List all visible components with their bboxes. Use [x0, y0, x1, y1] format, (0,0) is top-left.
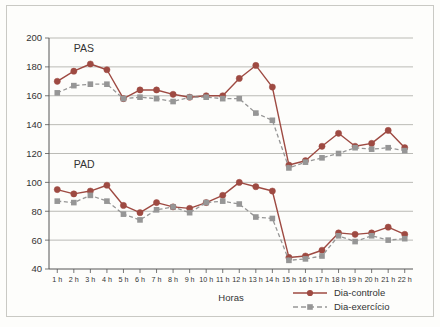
x-axis-tick-label: 10 h — [199, 275, 213, 284]
series-line — [57, 84, 404, 168]
data-point — [137, 94, 143, 100]
data-point — [385, 224, 391, 230]
data-point — [253, 214, 259, 220]
data-point — [253, 184, 259, 190]
data-point — [187, 94, 193, 100]
data-point — [71, 83, 77, 89]
x-axis-tick-label: 4 h — [102, 275, 112, 284]
data-point — [385, 127, 391, 133]
y-axis-tick-label: 40 — [31, 263, 42, 274]
data-point — [236, 75, 242, 81]
series-pad-exercicio — [54, 193, 407, 264]
data-point — [336, 151, 342, 157]
x-axis-tick-label: 13 h — [249, 275, 263, 284]
legend-marker — [307, 304, 313, 310]
data-point — [303, 159, 309, 165]
data-point — [336, 233, 342, 239]
data-point — [187, 210, 193, 216]
data-point — [88, 193, 94, 199]
data-point — [236, 96, 242, 102]
data-point — [236, 201, 242, 207]
x-axis-tick-label: 1 h — [52, 275, 62, 284]
data-point — [71, 200, 77, 206]
x-axis-group: 1 h2 h3 h4 h5 h6 h7 h8 h9 h10 h11 h12 h1… — [52, 269, 411, 284]
x-axis-tick-label: 12 h — [232, 275, 246, 284]
data-point — [236, 179, 242, 185]
data-point — [369, 233, 375, 239]
data-point — [137, 217, 143, 223]
y-axis-tick-label: 60 — [31, 235, 42, 246]
data-point — [270, 216, 276, 222]
data-point — [352, 239, 358, 245]
x-axis-tick-label: 21 h — [381, 275, 395, 284]
data-point — [220, 192, 226, 198]
data-point — [104, 182, 110, 188]
x-axis-tick-label: 15 h — [282, 275, 296, 284]
data-point — [153, 87, 159, 93]
data-point — [54, 186, 60, 192]
data-point — [137, 87, 143, 93]
chart-frame: 4060801001201401601802001 h2 h3 h4 h5 h6… — [6, 5, 434, 317]
data-point — [303, 256, 309, 262]
x-axis-tick-label: 2 h — [69, 275, 79, 284]
data-point — [402, 236, 408, 242]
chart-legend: Dia-controleDia-exercício — [293, 287, 389, 312]
x-axis-tick-label: 5 h — [118, 275, 128, 284]
y-axis-tick-label: 160 — [26, 90, 42, 101]
data-point — [385, 145, 391, 151]
data-point — [270, 117, 276, 123]
data-point — [121, 96, 127, 102]
x-axis-tick-label: 19 h — [348, 275, 362, 284]
data-point — [154, 207, 160, 213]
data-point — [104, 67, 110, 73]
data-point — [319, 155, 325, 161]
data-point — [253, 110, 259, 116]
data-point — [352, 231, 358, 237]
data-point — [286, 165, 292, 171]
x-axis-tick-label: 18 h — [332, 275, 346, 284]
data-point — [88, 81, 94, 87]
data-point — [137, 210, 143, 216]
x-axis-tick-label: 9 h — [185, 275, 195, 284]
data-point — [104, 198, 110, 204]
data-point — [170, 91, 176, 97]
data-point — [104, 81, 110, 87]
y-axis-tick-label: 180 — [26, 61, 42, 72]
data-point — [203, 94, 209, 100]
data-point — [71, 191, 77, 197]
y-axis-tick-label: 140 — [26, 119, 42, 130]
x-axis-tick-label: 14 h — [265, 275, 279, 284]
data-point — [170, 204, 176, 210]
data-point — [120, 202, 126, 208]
gridlines-group: 406080100120140160180200 — [26, 32, 413, 274]
x-axis-tick-label: 17 h — [315, 275, 329, 284]
panel-label-pad: PAD — [74, 158, 95, 170]
x-axis-tick-label: 3 h — [85, 275, 95, 284]
data-point — [54, 90, 60, 96]
data-point — [54, 198, 60, 204]
x-axis-tick-label: 22 h — [398, 275, 412, 284]
series-pas-controle — [54, 61, 408, 168]
data-point — [153, 199, 159, 205]
data-point — [335, 130, 341, 136]
x-axis-tick-label: 16 h — [298, 275, 312, 284]
y-axis-tick-label: 120 — [26, 148, 42, 159]
data-point — [170, 99, 176, 105]
y-axis-tick-label: 200 — [26, 32, 42, 43]
data-point — [71, 68, 77, 74]
chart-figure: 4060801001201401601802001 h2 h3 h4 h5 h6… — [0, 0, 440, 327]
data-point — [220, 96, 226, 102]
data-point — [203, 200, 209, 206]
x-axis-tick-label: 11 h — [216, 275, 229, 284]
data-point — [352, 145, 358, 151]
legend-label: Dia-controle — [334, 287, 385, 298]
data-point — [369, 146, 375, 152]
blood-pressure-line-chart: 4060801001201401601802001 h2 h3 h4 h5 h6… — [7, 6, 435, 318]
data-point — [154, 96, 160, 102]
y-axis-tick-label: 100 — [26, 177, 42, 188]
data-point — [253, 62, 259, 68]
series-line — [57, 182, 404, 257]
legend-label: Dia-exercício — [334, 301, 389, 312]
x-axis-tick-label: 20 h — [365, 275, 379, 284]
data-point — [269, 188, 275, 194]
